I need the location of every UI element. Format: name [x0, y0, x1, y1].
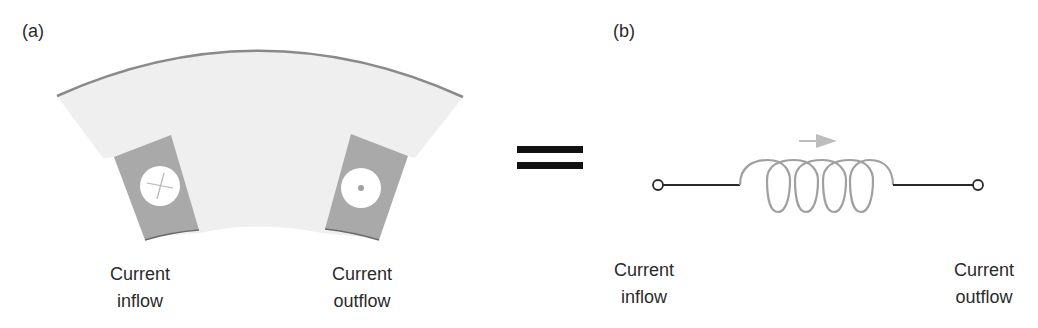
current-direction-arrow-icon: [799, 134, 837, 148]
caption-a-inflow-line2: inflow: [85, 288, 195, 315]
caption-b-inflow-line1: Current: [589, 257, 699, 284]
caption-b-outflow-line1: Current: [929, 257, 1038, 284]
inductor-coil-icon: [740, 160, 893, 212]
conductor-dot-icon: [341, 168, 381, 208]
caption-a-outflow: Current outflow: [307, 261, 417, 315]
caption-a-outflow-line2: outflow: [307, 288, 417, 315]
equals-icon: [517, 146, 583, 169]
caption-b-outflow: Current outflow: [929, 257, 1038, 311]
caption-a-inflow: Current inflow: [85, 261, 195, 315]
caption-b-inflow-line2: inflow: [589, 284, 699, 311]
left-terminal-icon: [653, 180, 663, 190]
caption-b-outflow-line2: outflow: [929, 284, 1038, 311]
caption-b-inflow: Current inflow: [589, 257, 699, 311]
caption-a-inflow-line1: Current: [85, 261, 195, 288]
right-terminal-icon: [973, 180, 983, 190]
conductor-cross-icon: [140, 166, 180, 206]
caption-a-outflow-line1: Current: [307, 261, 417, 288]
stator-segment: [57, 51, 463, 238]
